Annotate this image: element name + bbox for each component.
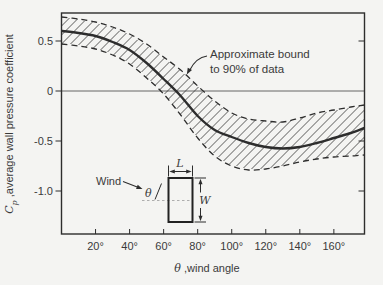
theta-axis-symbol: θ	[174, 262, 181, 275]
x-tick-label: 40°	[121, 240, 138, 252]
y-axis-title-text: ,average wall pressure coefficient	[3, 34, 15, 200]
y-axis-title: Cp ,average wall pressure coefficient	[3, 34, 18, 214]
annotation-line2: to 90% of data	[210, 62, 310, 77]
x-axis-ticks: 20°40°60°80°100°120°140°160°	[87, 229, 345, 252]
annotation-line1: Approximate bound	[210, 47, 310, 62]
theta-symbol: θ	[145, 187, 152, 200]
x-tick-label: 20°	[87, 240, 104, 252]
building-plan-inset	[123, 166, 206, 223]
wind-label: Wind	[96, 175, 121, 187]
building-rectangle	[169, 178, 193, 222]
pressure-coefficient-chart: 20°40°60°80°100°120°140°160°0.50-0.5-1.0	[0, 0, 383, 285]
x-tick-label: 140°	[288, 240, 311, 252]
y-tick-label: -1.0	[34, 185, 53, 197]
y-tick-label: -0.5	[34, 135, 53, 147]
cp-symbol: C	[3, 205, 16, 213]
cp-subscript: p	[10, 200, 19, 205]
x-tick-label: 160°	[322, 240, 345, 252]
annotation-90pct-bound: Approximate bound to 90% of data	[210, 47, 310, 77]
y-tick-label: 0.5	[38, 35, 53, 47]
x-axis-title-text: ,wind angle	[181, 262, 240, 274]
width-symbol: W	[199, 194, 210, 207]
y-tick-label: 0	[47, 85, 53, 97]
x-tick-label: 100°	[220, 240, 243, 252]
x-axis-title: θ ,wind angle	[174, 262, 239, 275]
x-tick-label: 80°	[189, 240, 206, 252]
x-tick-label: 60°	[155, 240, 172, 252]
leader-arrow	[187, 56, 207, 75]
length-symbol: L	[176, 157, 183, 170]
figure-wall-pressure-coefficient: 20°40°60°80°100°120°140°160°0.50-0.5-1.0…	[0, 0, 383, 285]
x-tick-label: 120°	[254, 240, 277, 252]
